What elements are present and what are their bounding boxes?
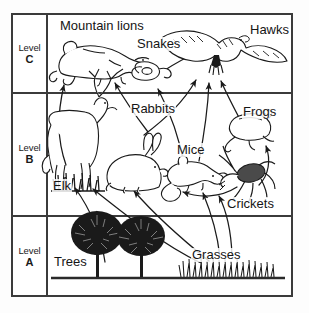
label-snakes: Snakes [136,37,181,51]
label-frogs: Frogs [242,105,277,119]
label-mice: Mice [176,143,205,157]
label-mountain-lions: Mountain lions [59,19,145,33]
label-grasses: Grasses [191,248,241,262]
label-hawks: Hawks [249,23,290,37]
rabbit-illustration [106,133,168,193]
label-elk: Elk [52,179,72,193]
arrow-crickets-to-mice [183,187,237,196]
diagram-artwork [13,15,291,295]
energy-pyramid-frame: Level C Level B Level A [11,13,293,297]
cricket-illustration [219,146,275,201]
tree-illustration-right [117,216,165,277]
label-crickets: Crickets [226,197,275,211]
snake-illustration [132,58,171,81]
label-rabbits: Rabbits [130,102,176,116]
label-trees: Trees [53,255,88,269]
mountain-lion-illustration [49,41,150,86]
diagram-canvas: Level C Level B Level A [0,0,309,313]
